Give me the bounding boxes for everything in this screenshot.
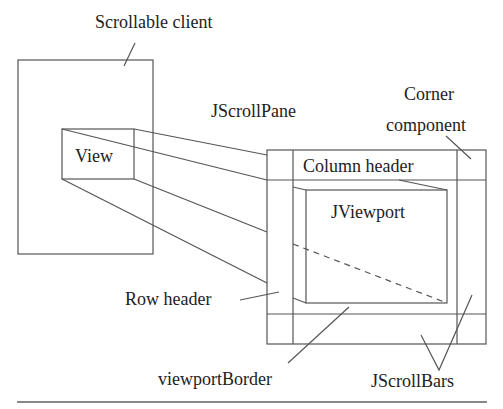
- jscrollpane-diagram: Scrollable client View JScrollPane Corne…: [0, 0, 503, 409]
- view-label: View: [75, 146, 113, 166]
- corner-component: Corner component: [386, 84, 471, 159]
- jviewport: JViewport: [293, 180, 447, 303]
- jviewport-label: JViewport: [331, 202, 405, 222]
- corner-label-line2: component: [386, 115, 466, 135]
- corner-leader: [446, 136, 471, 159]
- jscrollbars-leader: [421, 295, 472, 370]
- viewport-border: viewportBorder: [158, 307, 349, 389]
- column-header-label: Column header: [303, 156, 413, 176]
- jscrollpane-frame: [267, 150, 486, 344]
- viewport-border-leader: [288, 307, 349, 363]
- row-header: Row header: [125, 289, 279, 309]
- scrollable-client-leader: [124, 43, 135, 66]
- corner-label-line1: Corner: [404, 84, 454, 104]
- jscrollpane-label: JScrollPane: [211, 101, 296, 121]
- row-header-label: Row header: [125, 289, 211, 309]
- scrollable-client: Scrollable client: [18, 12, 212, 254]
- view: View: [62, 129, 134, 179]
- viewport-border-label: viewportBorder: [158, 369, 272, 389]
- row-header-leader: [240, 292, 279, 300]
- jscrollbars-label: JScrollBars: [371, 371, 454, 391]
- scrollable-client-label: Scrollable client: [95, 12, 212, 32]
